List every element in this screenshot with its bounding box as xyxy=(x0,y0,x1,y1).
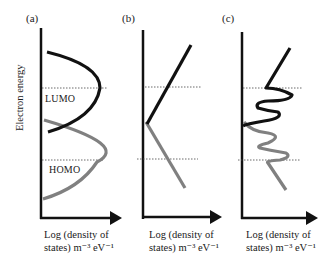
dos-axis-arrowhead-a xyxy=(110,211,122,225)
x-axis-label-a-line1: Log (density of xyxy=(44,228,114,241)
panel-a xyxy=(40,28,122,225)
lumo-trap-curve-c xyxy=(243,48,292,126)
x-axis-label-b: Log (density of states) m⁻³ eV⁻¹ xyxy=(149,228,219,254)
panel-label-a: (a) xyxy=(26,12,38,24)
x-axis-label-c: Log (density of states) m⁻³ eV⁻¹ xyxy=(246,228,316,254)
panel-c xyxy=(238,32,318,225)
homo-tail-line-b xyxy=(146,122,185,188)
dos-axis-arrowhead-c xyxy=(306,211,318,225)
panel-label-b: (b) xyxy=(122,12,135,24)
panel-label-c: (c) xyxy=(222,12,234,24)
dos-diagram xyxy=(0,0,336,263)
homo-label: HOMO xyxy=(49,164,80,175)
x-axis-label-a-line2: states) m⁻³ eV⁻¹ xyxy=(44,241,114,254)
lumo-label: LUMO xyxy=(45,93,75,104)
y-axis-label: Electron energy xyxy=(14,64,25,131)
x-axis-label-b-line1: Log (density of xyxy=(149,228,219,241)
x-axis-label-b-line2: states) m⁻³ eV⁻¹ xyxy=(149,241,219,254)
x-axis-label-c-line1: Log (density of xyxy=(246,228,316,241)
dos-axis-arrowhead-b xyxy=(210,210,222,224)
lumo-band-curve-a xyxy=(47,52,100,132)
x-axis-label-a: Log (density of states) m⁻³ eV⁻¹ xyxy=(44,228,114,254)
x-axis-label-c-line2: states) m⁻³ eV⁻¹ xyxy=(246,241,316,254)
homo-trap-curve-c xyxy=(244,122,288,190)
panel-b xyxy=(137,30,222,224)
lumo-tail-line-b xyxy=(147,45,191,124)
